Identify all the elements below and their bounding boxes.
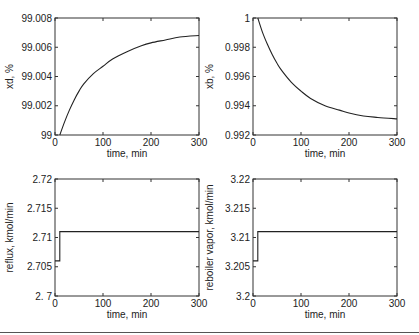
plot-frame [55,179,199,296]
y-tick-label: 0.998 [225,42,250,53]
y-tick-label: 2.71 [33,232,53,243]
y-axis-label: reboiler vapor, kmol/min [204,184,215,290]
x-tick-label: 0 [250,137,256,148]
y-tick-label: 99.006 [21,42,52,53]
x-tick-label: 100 [95,137,112,148]
y-tick-label: 3.21 [231,232,251,243]
x-axis-label: time, min [107,309,148,320]
x-tick-label: 200 [143,298,160,309]
y-tick-label: 99.004 [21,71,52,82]
chart-figure: 01002003009999.00299.00499.00699.008time… [0,0,419,335]
chart-panel-xb: 01002003000.9920.9940.9960.9981time, min… [204,13,406,160]
chart-panel-reboiler: 01002003003.23.2053.213.2153.22time, min… [204,174,406,321]
y-tick-label: 99 [41,130,53,141]
y-axis-label: xd, % [4,64,15,89]
y-tick-label: 2.715 [27,203,52,214]
series-line [258,18,397,119]
y-tick-label: 2. 7 [35,291,52,302]
x-axis-label: time, min [107,148,148,159]
y-tick-label: 2.72 [33,174,53,185]
y-axis-label: reflux, kmol/min [4,202,15,272]
x-axis-label: time, min [305,309,346,320]
plot-frame [55,18,199,135]
y-tick-label: 0.994 [225,100,250,111]
series-line [55,232,199,261]
chart-panel-xd: 01002003009999.00299.00499.00699.008time… [4,13,208,160]
x-axis-label: time, min [305,148,346,159]
x-tick-label: 0 [250,298,256,309]
y-tick-label: 0.996 [225,71,250,82]
plot-frame [253,179,397,296]
x-tick-label: 100 [293,298,310,309]
y-tick-label: 3.2 [236,291,250,302]
chart-panel-reflux: 01002003002. 72.7052.712.7152.72time, mi… [4,174,208,321]
y-tick-label: 3.215 [225,203,250,214]
x-tick-label: 100 [293,137,310,148]
x-tick-label: 300 [389,137,406,148]
y-tick-label: 1 [244,13,250,24]
y-tick-label: 99.002 [21,100,52,111]
series-line [60,36,199,135]
y-tick-label: 3.205 [225,261,250,272]
bottom-divider [0,332,419,333]
x-tick-label: 300 [191,298,208,309]
x-tick-label: 0 [52,298,58,309]
y-tick-label: 99.008 [21,13,52,24]
series-line [253,232,397,261]
x-tick-label: 100 [95,298,112,309]
y-tick-label: 0.992 [225,130,250,141]
x-tick-label: 200 [341,137,358,148]
x-tick-label: 300 [389,298,406,309]
x-tick-label: 200 [341,298,358,309]
y-tick-label: 3.22 [231,174,251,185]
y-axis-label: xb, % [204,64,215,89]
x-tick-label: 0 [52,137,58,148]
x-tick-label: 300 [191,137,208,148]
y-tick-label: 2.705 [27,261,52,272]
x-tick-label: 200 [143,137,160,148]
